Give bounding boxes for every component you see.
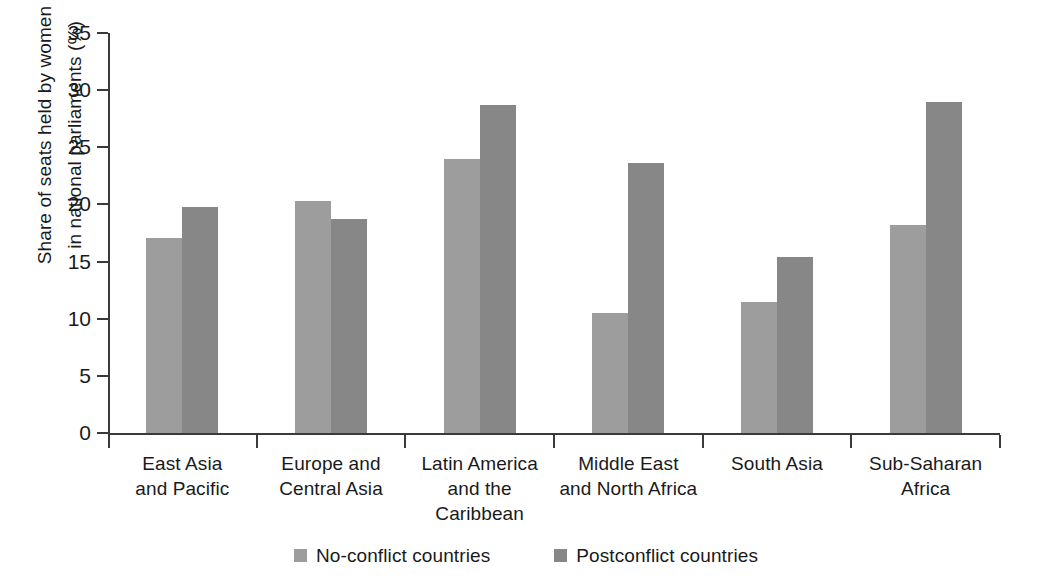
bar (890, 225, 926, 433)
y-axis-tick-label: 25 (31, 136, 91, 157)
bar (444, 159, 480, 433)
y-axis-tick-label: 20 (31, 193, 91, 214)
y-axis-tick (97, 432, 108, 434)
y-axis-tick (97, 89, 108, 91)
x-axis-separator-tick (850, 435, 852, 448)
x-axis-category-label: East Asia and Pacific (108, 451, 257, 501)
x-axis-category-label: Europe and Central Asia (257, 451, 406, 501)
x-axis-category-label: Middle East and North Africa (554, 451, 703, 501)
y-axis-tick (97, 203, 108, 205)
x-axis-category-label: South Asia (703, 451, 852, 476)
x-axis-category-label: Latin America and the Caribbean (405, 451, 554, 526)
bar (741, 302, 777, 433)
legend-label: Postconflict countries (576, 546, 758, 565)
bar (182, 207, 218, 433)
legend-item[interactable]: No-conflict countries (294, 546, 490, 565)
chart-legend: No-conflict countriesPostconflict countr… (0, 546, 1052, 565)
y-axis-tick (97, 375, 108, 377)
x-axis-separator-tick (108, 435, 110, 448)
bar (146, 238, 182, 433)
bar (295, 201, 331, 433)
y-axis-tick-label: 35 (31, 22, 91, 43)
legend-swatch-icon (294, 549, 307, 562)
bar (628, 163, 664, 433)
x-axis-separator-tick (999, 435, 1001, 448)
y-axis-tick-label: 10 (31, 308, 91, 329)
x-axis-separator-tick (702, 435, 704, 448)
legend-swatch-icon (554, 549, 567, 562)
y-axis-tick (97, 318, 108, 320)
y-axis-tick-label: 30 (31, 79, 91, 100)
y-axis-tick (97, 261, 108, 263)
x-axis-separator-tick (404, 435, 406, 448)
y-axis-line (108, 33, 110, 434)
bar-chart-figure: Share of seats held by women in national… (0, 0, 1052, 584)
x-axis-separator-tick (553, 435, 555, 448)
x-axis-separator-tick (256, 435, 258, 448)
bar (480, 105, 516, 433)
bar (331, 219, 367, 433)
y-axis-tick (97, 32, 108, 34)
x-axis-category-label: Sub-Saharan Africa (851, 451, 1000, 501)
y-axis-tick-label: 0 (31, 422, 91, 443)
y-axis-tick-label: 15 (31, 251, 91, 272)
bar (592, 313, 628, 433)
legend-label: No-conflict countries (316, 546, 490, 565)
bar (926, 102, 962, 433)
y-axis-tick-label: 5 (31, 365, 91, 386)
plot-area: 05101520253035 East Asia and PacificEuro… (108, 33, 1000, 433)
bar (777, 257, 813, 433)
y-axis-title: Share of seats held by women in national… (30, 0, 90, 355)
legend-item[interactable]: Postconflict countries (554, 546, 758, 565)
y-axis-tick (97, 146, 108, 148)
